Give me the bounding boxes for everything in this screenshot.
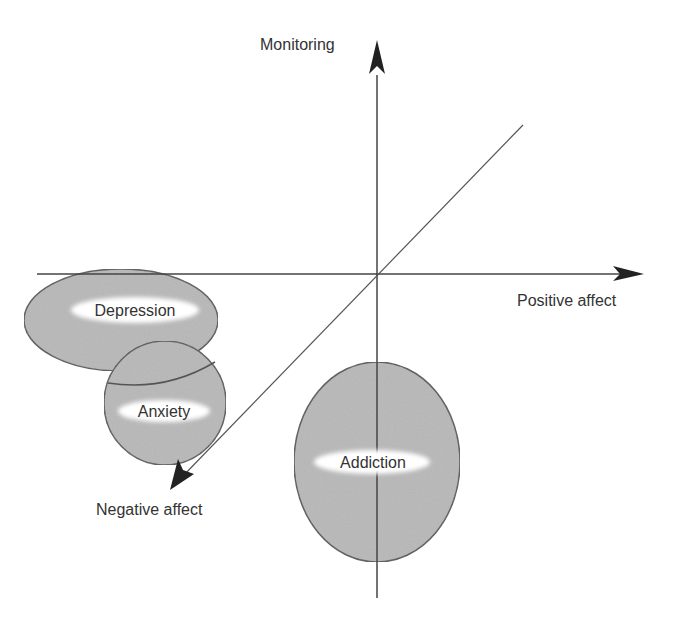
affect-diagram: Depression Anxiety Addiction Monitoring … — [0, 0, 676, 620]
positive-affect-axis-label: Positive affect — [517, 292, 617, 309]
addiction-label: Addiction — [340, 454, 406, 471]
anxiety-label: Anxiety — [138, 403, 190, 420]
depression-label: Depression — [95, 302, 176, 319]
negative-affect-axis-label: Negative affect — [96, 501, 203, 518]
arrow-up-icon — [369, 40, 385, 74]
monitoring-axis-label: Monitoring — [260, 36, 335, 53]
